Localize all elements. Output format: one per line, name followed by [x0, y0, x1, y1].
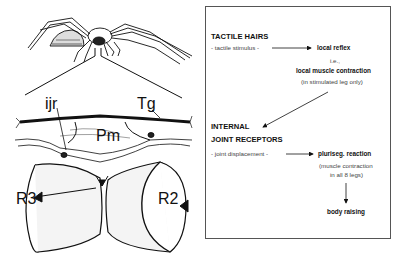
body-raising-text: body raising	[327, 209, 365, 215]
muscle-contraction-note-2: in all 8 legs)	[330, 172, 363, 178]
muscle-contraction-note-1: (muscle contraction	[319, 163, 373, 169]
label-r3: R3	[16, 191, 36, 207]
stimulated-leg-note: (in stimulated leg only)	[301, 79, 363, 85]
tactile-hairs-heading: TACTILE HAIRS	[211, 33, 268, 41]
joint-displacement-text: - joint displacement -	[211, 151, 268, 157]
internal-heading: INTERNAL	[211, 123, 249, 131]
label-pm: Pm	[96, 128, 120, 144]
magnification-lines	[25, 48, 182, 98]
label-ijr: ijr	[45, 96, 57, 112]
tactile-stimulus-text: - tactile stimulus -	[211, 45, 259, 51]
pluriseg-reaction-text: pluriseg. reaction	[318, 151, 371, 157]
label-tg: Tg	[137, 96, 156, 112]
local-muscle-contraction-text: local muscle contraction	[296, 68, 371, 74]
ie-text: i.e.,	[330, 58, 340, 64]
local-reflex-text: local reflex	[317, 45, 350, 51]
joint-receptors-heading: JOINT RECEPTORS	[211, 136, 283, 144]
label-r2: R2	[158, 191, 178, 207]
spider-illustration	[28, 18, 192, 64]
